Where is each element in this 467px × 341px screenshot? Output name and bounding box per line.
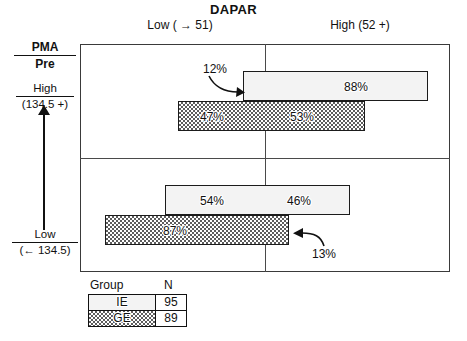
bar-pma-low-ge[interactable] bbox=[105, 215, 289, 245]
bar-label-pma-low-ge-low: 87% bbox=[163, 225, 187, 237]
legend-n-ie: 95 bbox=[156, 295, 187, 311]
column-header-high-label: High (52 +) bbox=[330, 18, 390, 32]
bar-label-pma-high-ge-high: 53% bbox=[290, 111, 314, 123]
y-axis-title-line1: PMA bbox=[14, 40, 76, 56]
bar-label-pma-low-ie-low: 54% bbox=[200, 195, 224, 207]
y-axis-title: PMA Pre bbox=[14, 40, 76, 71]
column-header-high: High (52 +) bbox=[300, 18, 420, 32]
bar-pma-high-ie[interactable] bbox=[243, 71, 428, 101]
column-header-low: Low ( → 51) bbox=[120, 18, 240, 32]
bar-label-pma-high-ge-low: 47% bbox=[200, 111, 224, 123]
legend-table: IE 95 GE 89 bbox=[88, 294, 187, 327]
legend-row-ie[interactable]: IE 95 bbox=[89, 295, 187, 311]
row-header-high-line1: High bbox=[16, 82, 74, 97]
legend-label-ge: GE bbox=[113, 311, 130, 325]
callout-12-percent-arrow-icon bbox=[205, 74, 251, 98]
legend-label-ie: IE bbox=[116, 295, 127, 309]
row-header-low-line2: (← 134.5) bbox=[19, 244, 70, 256]
bar-label-pma-high-ie-high: 88% bbox=[344, 81, 368, 93]
row-header-low-line1: Low bbox=[12, 228, 78, 243]
legend-n-ge: 89 bbox=[156, 311, 187, 327]
legend-swatch-ge: GE bbox=[89, 311, 156, 327]
callout-13-percent-label: 13% bbox=[312, 247, 336, 261]
y-axis-arrow-line-icon bbox=[43, 112, 45, 230]
legend-header-row: Group N bbox=[88, 278, 192, 294]
legend-row-ge[interactable]: GE 89 bbox=[89, 311, 187, 327]
legend-header-n: N bbox=[164, 278, 173, 292]
bar-label-pma-low-ie-high: 46% bbox=[287, 195, 311, 207]
chart-title: DAPAR bbox=[0, 2, 467, 17]
row-header-low: Low (← 134.5) bbox=[6, 228, 84, 257]
legend-swatch-ie: IE bbox=[89, 295, 156, 311]
legend: Group N IE 95 GE 89 bbox=[88, 278, 192, 327]
bar-pma-low-ie[interactable] bbox=[165, 185, 350, 215]
y-axis-title-line2: Pre bbox=[35, 57, 54, 71]
legend-header-group: Group bbox=[90, 278, 123, 292]
column-header-low-label: Low ( → 51) bbox=[147, 18, 212, 32]
